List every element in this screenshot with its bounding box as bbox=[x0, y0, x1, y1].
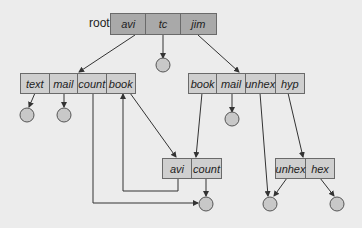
file-count-shared bbox=[199, 197, 213, 211]
edge-root-jim bbox=[198, 35, 239, 72]
hyp-directory: unhex hex bbox=[275, 158, 335, 179]
root-directory: avi tc jim bbox=[110, 13, 217, 35]
edge-text bbox=[29, 93, 35, 107]
root-label: root bbox=[89, 16, 110, 30]
entry-hyp: hyp bbox=[276, 74, 304, 93]
edge-book-right bbox=[196, 93, 202, 157]
entry-unhex: unhex bbox=[276, 159, 306, 178]
entry-mail: mail bbox=[50, 74, 79, 93]
entry-book: book bbox=[107, 74, 135, 93]
root-entry-tc: tc bbox=[146, 14, 180, 34]
entry-count: count bbox=[192, 159, 221, 178]
file-tc bbox=[156, 58, 170, 72]
entry-count: count bbox=[78, 74, 107, 93]
file-hex bbox=[330, 197, 344, 211]
edge-count-left bbox=[93, 93, 198, 203]
jim-directory: book mail unhex hyp bbox=[188, 73, 305, 94]
entry-text: text bbox=[21, 74, 50, 93]
entry-hex: hex bbox=[306, 159, 334, 178]
file-unhex bbox=[263, 197, 277, 211]
entry-avi: avi bbox=[163, 159, 192, 178]
entry-unhex: unhex bbox=[246, 74, 276, 93]
shared-directory: avi count bbox=[162, 158, 222, 179]
edge-hyp-hex bbox=[320, 178, 334, 196]
entry-mail: mail bbox=[217, 74, 245, 93]
edge-book-left bbox=[130, 93, 176, 157]
edge-hyp-unhex bbox=[274, 178, 287, 196]
file-text bbox=[20, 108, 34, 122]
edge-unhex-right bbox=[260, 93, 268, 196]
entry-book: book bbox=[189, 74, 217, 93]
root-entry-avi: avi bbox=[111, 14, 146, 34]
file-mail-right bbox=[225, 112, 239, 126]
root-entry-jim: jim bbox=[181, 14, 216, 34]
avi-directory: text mail count book bbox=[20, 73, 136, 94]
edge-hyp bbox=[288, 93, 303, 157]
file-mail-left bbox=[57, 108, 71, 122]
edge-root-avi bbox=[79, 35, 135, 72]
